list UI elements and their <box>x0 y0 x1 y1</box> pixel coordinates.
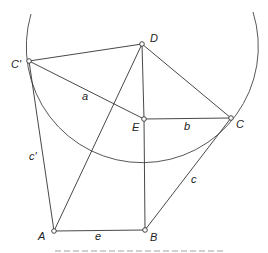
segment-c-prime-d <box>29 44 142 61</box>
label-b-point: B <box>150 231 157 243</box>
segment-d-a <box>54 44 142 231</box>
caption-text-fragment <box>55 250 225 252</box>
label-d: D <box>150 32 158 44</box>
label-segment-a: a <box>82 90 88 102</box>
segment-c <box>145 118 231 230</box>
geometry-figure: C' D E C A B a b c c' e <box>0 0 268 253</box>
point-c <box>229 116 234 121</box>
point-e <box>142 117 147 122</box>
point-d <box>140 42 145 47</box>
label-c-prime: C' <box>11 58 22 70</box>
point-a <box>52 229 57 234</box>
label-segment-c: c <box>191 173 197 185</box>
segment-c-prime-a <box>29 61 54 231</box>
label-a-point: A <box>37 230 45 242</box>
segment-e-b <box>144 119 145 230</box>
point-b <box>143 228 148 233</box>
label-segment-c-prime: c' <box>29 150 38 162</box>
label-c-point: C <box>236 118 244 130</box>
label-e-point: E <box>132 121 140 133</box>
segment-b <box>144 118 231 119</box>
segment-d-c <box>142 44 231 118</box>
segment-d-e <box>142 44 144 119</box>
label-segment-e: e <box>95 230 101 242</box>
point-c-prime <box>27 59 32 64</box>
circle-arc <box>26 12 258 163</box>
figure-caption-clipped <box>55 249 225 253</box>
label-segment-b: b <box>184 120 190 132</box>
